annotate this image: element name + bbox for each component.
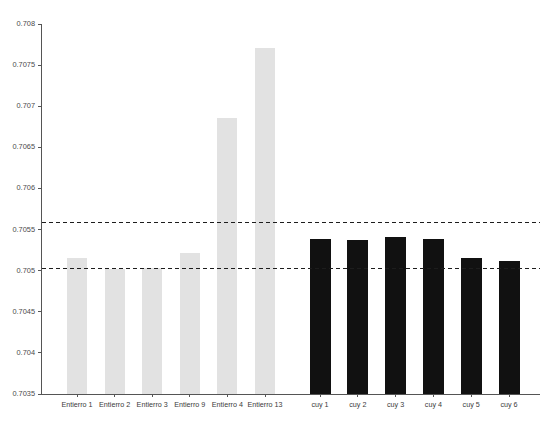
x-tick-label: Entierro 13	[247, 400, 282, 409]
y-tick-label: 0.704	[17, 348, 36, 357]
x-tick-label: cuy 3	[387, 400, 404, 409]
bar-cuy-5	[461, 258, 482, 394]
x-tick-label: cuy 4	[425, 400, 442, 409]
x-tick-label: cuy 1	[311, 400, 328, 409]
bar-entierro-3	[142, 268, 162, 394]
bar-cuy-4	[423, 239, 444, 394]
y-tick-label: 0.7075	[12, 60, 35, 69]
bar-cuy-3	[385, 237, 406, 394]
bar-entierro-13	[255, 48, 275, 394]
x-axis-ticks: Entierro 1Entierro 2Entierro 3Entierro 9…	[61, 394, 517, 409]
x-tick-label: Entierro 3	[137, 400, 168, 409]
bar-entierro-1	[67, 258, 87, 394]
x-tick-label: Entierro 4	[212, 400, 243, 409]
x-tick-label: Entierro 9	[174, 400, 205, 409]
bar-entierro-4	[217, 118, 237, 394]
y-tick-label: 0.707	[17, 101, 36, 110]
y-tick-label: 0.7045	[12, 307, 35, 316]
x-tick-label: cuy 5	[463, 400, 480, 409]
y-tick-label: 0.7055	[12, 225, 35, 234]
y-tick-label: 0.7035	[12, 389, 35, 398]
bar-chart: 0.70350.7040.70450.7050.70550.7060.70650…	[0, 0, 545, 427]
y-axis-ticks: 0.70350.7040.70450.7050.70550.7060.70650…	[12, 19, 41, 398]
y-tick-label: 0.705	[17, 266, 36, 275]
bars-layer	[67, 48, 520, 394]
x-tick-label: Entierro 2	[99, 400, 130, 409]
y-tick-label: 0.7065	[12, 142, 35, 151]
bar-entierro-9	[180, 253, 200, 394]
chart-plot-area: 0.70350.7040.70450.7050.70550.7060.70650…	[0, 0, 545, 427]
bar-entierro-2	[105, 269, 125, 394]
y-tick-label: 0.708	[17, 19, 36, 28]
x-tick-label: cuy 2	[349, 400, 366, 409]
x-tick-label: cuy 6	[500, 400, 517, 409]
y-tick-label: 0.706	[17, 183, 36, 192]
bar-cuy-2	[347, 240, 368, 394]
bar-cuy-1	[310, 239, 331, 394]
x-tick-label: Entierro 1	[61, 400, 92, 409]
bar-cuy-6	[499, 261, 520, 394]
